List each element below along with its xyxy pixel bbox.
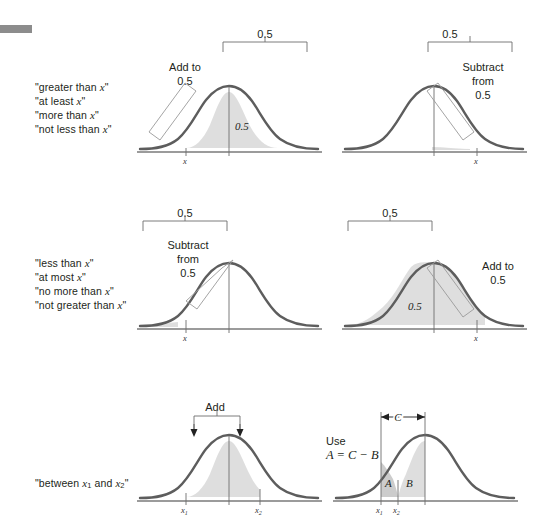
figure-canvas: "greater than x" "at least x" "more than… <box>0 0 541 524</box>
chart-between-right: x1 x2 A B C <box>0 0 541 524</box>
c-measure-label: C <box>394 411 402 423</box>
area-label-B: B <box>406 477 413 489</box>
c-arrow-head-right <box>417 414 425 421</box>
area-label-A: A <box>384 477 392 489</box>
x1-axis-tick-label: x1 <box>375 505 383 516</box>
c-arrow-head-left <box>381 414 389 421</box>
x2-axis-tick-label: x2 <box>392 505 400 516</box>
